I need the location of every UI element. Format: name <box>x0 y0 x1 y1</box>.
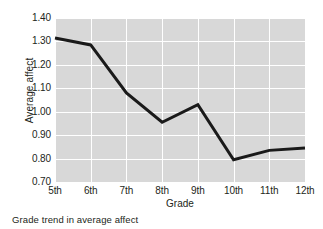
series-line <box>55 38 305 160</box>
x-axis-tick-label: 10th <box>214 185 254 197</box>
gridline-vertical <box>305 18 306 182</box>
x-axis-tick-label: 8th <box>142 185 182 197</box>
x-axis-title: Grade <box>55 198 305 209</box>
y-axis-tick-label: 1.20 <box>21 60 51 70</box>
x-axis-tick-label: 9th <box>178 185 218 197</box>
x-axis-tick-label: 7th <box>106 185 146 197</box>
y-axis-tick-label: 1.30 <box>21 36 51 46</box>
y-axis-tick-label: 0.80 <box>21 154 51 164</box>
y-axis-tick-label: 1.00 <box>21 107 51 117</box>
y-axis-tick-label: 1.40 <box>21 13 51 23</box>
x-axis-tick-label: 12th <box>285 185 323 197</box>
y-axis-tick-labels: 0.700.800.901.001.101.201.301.40 <box>21 18 51 182</box>
x-axis-tick-label: 6th <box>71 185 111 197</box>
figure-caption: Grade trend in average affect <box>12 214 138 225</box>
plot-area <box>55 18 305 182</box>
x-axis-tick-labels: 5th6th7th8th9th10th11th12th <box>55 185 305 199</box>
line-series <box>55 18 305 182</box>
chart-figure: Average affect 0.700.800.901.001.101.201… <box>0 0 323 229</box>
x-axis-tick-label: 11th <box>249 185 289 197</box>
y-axis-tick-label: 1.10 <box>21 83 51 93</box>
x-axis-tick-label: 5th <box>35 185 75 197</box>
gridline-horizontal <box>55 182 305 183</box>
y-axis-tick-label: 0.90 <box>21 130 51 140</box>
